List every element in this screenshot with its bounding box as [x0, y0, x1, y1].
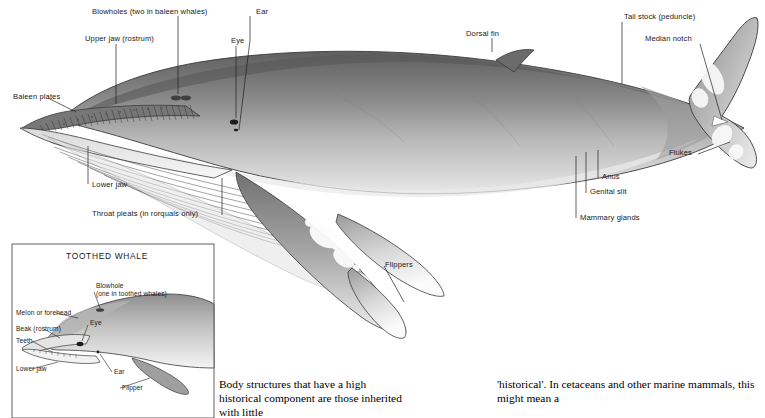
inset-label-flipper: Flipper [122, 384, 143, 392]
body-text-right-column: 'historical'. In cetaceans and other mar… [497, 377, 759, 405]
label-median-notch: Median notch [645, 34, 692, 43]
label-baleen-plates: Baleen plates [13, 92, 60, 101]
eye-marking [230, 119, 238, 124]
inset-label-teeth: Teeth [16, 337, 33, 345]
ear-marking [234, 129, 238, 131]
label-anus: Anus [602, 172, 620, 181]
label-throat-pleats: Throat pleats (in rorquals only) [92, 209, 198, 218]
label-mammary-glands: Mammary glands [580, 213, 640, 222]
label-eye: Eye [231, 36, 244, 45]
label-blowholes: Blowholes (two in baleen whales) [92, 7, 207, 16]
label-tail-stock: Tail stock (peduncle) [624, 12, 695, 21]
inset-label-ear: Ear [114, 368, 125, 376]
inset-eye-marking [77, 342, 84, 346]
whale-body [60, 51, 744, 193]
label-lower-jaw: Lower jaw [92, 180, 127, 189]
label-ear: Ear [256, 7, 268, 16]
inset-label-beak: Beak (rostrum) [16, 325, 61, 333]
figure-page: Blowholes (two in baleen whales) Ear Dor… [0, 0, 765, 418]
body-text-left-column: Body structures that have a high histori… [219, 377, 404, 418]
label-genital-slit: Genital slit [590, 187, 627, 196]
label-upper-jaw: Upper jaw (rostrum) [85, 34, 154, 43]
inset-label-blowhole-sub: (one in toothed whales) [96, 290, 167, 298]
inset-label-melon: Melon or forehead [16, 309, 71, 317]
label-flippers: Flippers [385, 260, 413, 269]
inset-label-lower-jaw: Lower jaw [16, 365, 47, 373]
inset-blowhole-marking [96, 308, 104, 312]
inset-ear-marking [97, 351, 100, 354]
inset-title: TOOTHED WHALE [66, 251, 148, 261]
label-flukes: Flukes [669, 148, 692, 157]
inset-label-eye: Eye [90, 319, 102, 327]
label-dorsal-fin: Dorsal fin [466, 29, 499, 38]
inset-label-blowhole: Blowhole [96, 282, 124, 290]
